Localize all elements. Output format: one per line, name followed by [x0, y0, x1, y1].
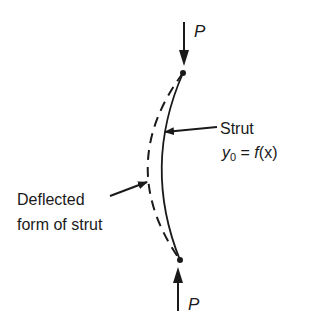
bottom-load-label: P: [188, 295, 200, 314]
strut-equation: y0 = f(x): [221, 144, 277, 163]
deflected-form-curve: [148, 73, 183, 260]
deflected-leader-arrow: [110, 182, 147, 196]
deflected-label-line1: Deflected: [17, 191, 85, 208]
strut-leader-arrow: [165, 127, 217, 132]
strut-curve: [162, 73, 183, 260]
bottom-pin: [177, 257, 183, 263]
top-load-label: P: [194, 22, 206, 41]
strut-label: Strut: [220, 120, 254, 137]
bottom-load-arrow: [173, 267, 183, 311]
strut-diagram: P P Strut y0 = f(x) Deflected form of st…: [0, 0, 318, 327]
top-load-arrow: [179, 22, 189, 66]
deflected-label-line2: form of strut: [17, 216, 103, 233]
